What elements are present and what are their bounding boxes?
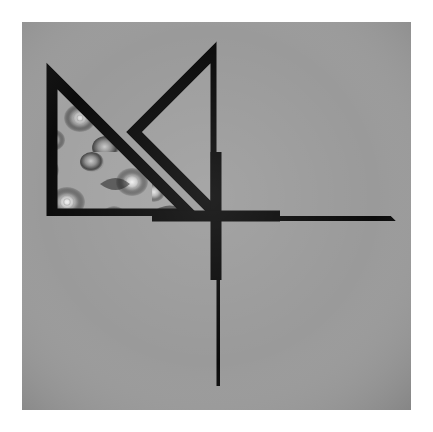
quilt-block — [22, 22, 411, 410]
photo-vignette — [22, 22, 411, 410]
image-canvas — [0, 0, 433, 432]
quilt-block-illustration — [22, 22, 411, 410]
